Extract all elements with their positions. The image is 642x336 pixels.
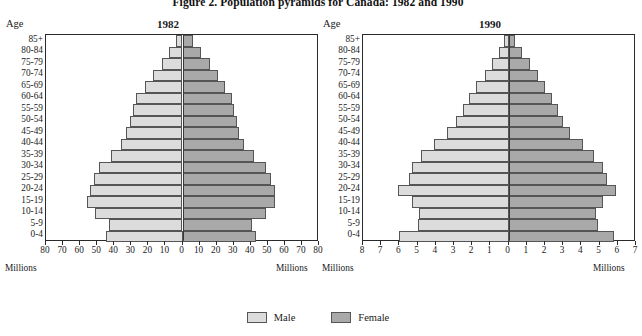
unit-label-right-1990: Millions xyxy=(593,263,625,273)
bar-female xyxy=(509,127,571,139)
unit-label-left-1982: Millions xyxy=(5,263,37,273)
bar-female xyxy=(183,173,272,185)
age-label: 20-24 xyxy=(338,185,360,194)
bar-female xyxy=(183,104,234,116)
x-tick-label: 6 xyxy=(396,245,401,255)
pyramid-row xyxy=(46,162,317,174)
age-label: 80-84 xyxy=(21,47,43,56)
x-tick-label: 30 xyxy=(228,245,237,255)
x-tick-label: 8 xyxy=(360,245,365,255)
bar-male xyxy=(463,104,509,116)
legend-label-male: Male xyxy=(274,312,296,323)
bar-female xyxy=(509,208,596,220)
bar-female xyxy=(183,139,244,151)
x-tick-label: 80 xyxy=(40,245,49,255)
bar-male xyxy=(94,173,183,185)
bar-male xyxy=(456,116,509,128)
pyramid-row xyxy=(363,58,634,70)
age-label: 45-49 xyxy=(338,127,360,136)
age-axis-title-right: Age xyxy=(323,18,341,29)
bar-female xyxy=(509,93,553,105)
pyramid-row xyxy=(46,104,317,116)
legend-item-female: Female xyxy=(331,312,389,323)
bar-male xyxy=(412,162,508,174)
age-label: 0-4 xyxy=(31,231,43,240)
x-tick-label: 40 xyxy=(109,245,118,255)
pyramid-row xyxy=(46,93,317,105)
bar-female xyxy=(183,185,275,197)
pyramid-row xyxy=(363,93,634,105)
x-tick-label: 60 xyxy=(279,245,288,255)
age-label: 35-39 xyxy=(21,150,43,159)
bar-male xyxy=(111,150,183,162)
bar-male xyxy=(106,231,183,243)
age-label: 30-34 xyxy=(21,162,43,171)
bar-female xyxy=(183,58,210,70)
bar-male xyxy=(121,139,182,151)
bar-rows-1982 xyxy=(46,35,317,240)
x-tick-label: 50 xyxy=(92,245,101,255)
pyramid-row xyxy=(363,104,634,116)
pyramid-row xyxy=(46,70,317,82)
age-tick-labels-left: 85+80-8475-7970-7465-6960-6455-5950-5445… xyxy=(5,34,43,241)
bar-female xyxy=(183,81,226,93)
x-tick-label: 30 xyxy=(126,245,135,255)
pyramid-row xyxy=(363,219,634,231)
bar-female xyxy=(183,127,239,139)
bar-male xyxy=(434,139,509,151)
pyramid-row xyxy=(46,150,317,162)
bar-male xyxy=(499,47,509,59)
pyramid-row xyxy=(363,196,634,208)
unit-label-right-1982: Millions xyxy=(276,263,308,273)
age-label: 25-29 xyxy=(338,173,360,182)
bar-female xyxy=(509,185,616,197)
age-label: 20-24 xyxy=(21,185,43,194)
age-label: 0-4 xyxy=(348,231,360,240)
x-tick-label: 60 xyxy=(74,245,83,255)
bar-rows-1990 xyxy=(363,35,634,240)
pyramid-row xyxy=(46,196,317,208)
chart-legend: Male Female xyxy=(0,312,636,323)
legend-swatch-male-icon xyxy=(247,312,267,323)
pyramid-row xyxy=(363,35,634,47)
x-tick-label: 70 xyxy=(296,245,305,255)
pyramid-row xyxy=(363,139,634,151)
x-tick-label: 50 xyxy=(262,245,271,255)
bar-female xyxy=(183,196,275,208)
age-label: 30-34 xyxy=(338,162,360,171)
panel-subtitle-1990: 1990 xyxy=(172,18,642,30)
bar-male xyxy=(398,185,509,197)
age-label: 45-49 xyxy=(21,127,43,136)
age-label: 70-74 xyxy=(338,70,360,79)
bar-female xyxy=(183,47,202,59)
bar-female xyxy=(183,93,232,105)
bar-female xyxy=(509,58,530,70)
bar-female xyxy=(183,150,255,162)
bar-male xyxy=(162,58,182,70)
age-label: 15-19 xyxy=(338,196,360,205)
age-label: 65-69 xyxy=(21,81,43,90)
pyramid-row xyxy=(363,185,634,197)
x-tick-label: 7 xyxy=(378,245,383,255)
bar-female xyxy=(183,208,267,220)
x-tick-label: 4 xyxy=(432,245,437,255)
pyramid-row xyxy=(46,35,317,47)
legend-label-female: Female xyxy=(358,312,389,323)
age-label: 80-84 xyxy=(338,47,360,56)
bar-female xyxy=(509,70,538,82)
bar-male xyxy=(87,196,183,208)
bar-male xyxy=(476,81,509,93)
bar-male xyxy=(109,219,182,231)
bar-male xyxy=(492,58,508,70)
pyramid-row xyxy=(363,127,634,139)
bar-female xyxy=(183,162,267,174)
age-label: 40-44 xyxy=(21,139,43,148)
x-tick-label: 20 xyxy=(211,245,220,255)
bar-female xyxy=(509,81,545,93)
bar-female xyxy=(183,70,219,82)
bar-male xyxy=(412,196,508,208)
center-axis-line-right xyxy=(509,35,510,240)
age-label: 55-59 xyxy=(338,104,360,113)
pyramid-row xyxy=(46,81,317,93)
legend-swatch-female-icon xyxy=(331,312,351,323)
